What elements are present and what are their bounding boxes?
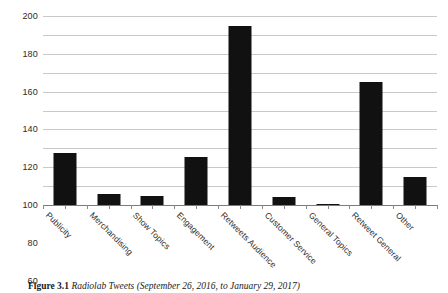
bar-slot bbox=[131, 16, 175, 205]
x-axis-category-label: Engagement bbox=[175, 210, 217, 252]
y-axis-tick-label: 160 bbox=[22, 87, 38, 97]
caption-text: Radiolab Tweets (September 26, 2016, to … bbox=[71, 281, 300, 291]
x-axis-category-label: General Topics bbox=[306, 210, 354, 258]
y-axis-tick-label: 180 bbox=[22, 49, 38, 59]
bar-slot bbox=[393, 16, 437, 205]
x-tickmark bbox=[437, 205, 438, 209]
x-axis-category-label: Merchandising bbox=[88, 210, 135, 257]
x-axis-category-label: Publicity bbox=[44, 210, 74, 240]
bar-slot bbox=[262, 16, 306, 205]
plot-area: 020406080100120140160180200 bbox=[43, 16, 437, 205]
figure-container: 020406080100120140160180200 PublicityMer… bbox=[0, 0, 448, 293]
bar-slot bbox=[87, 16, 131, 205]
bar-slot bbox=[349, 16, 393, 205]
bar-slot bbox=[174, 16, 218, 205]
y-axis-tick-label: 100 bbox=[22, 200, 38, 210]
bar-slot bbox=[306, 16, 350, 205]
x-axis-category-label: Other bbox=[394, 210, 416, 232]
x-axis-labels: PublicityMerchandisingShow TopicsEngagem… bbox=[43, 208, 437, 274]
y-axis-tick-label: 80 bbox=[28, 238, 38, 248]
bar bbox=[360, 82, 383, 205]
bar bbox=[272, 197, 295, 206]
y-axis-tick-label: 120 bbox=[22, 162, 38, 172]
caption-label: Figure 3.1 bbox=[28, 281, 69, 291]
bar bbox=[53, 153, 76, 205]
bar bbox=[141, 196, 164, 205]
y-axis-tick-label: 200 bbox=[22, 11, 38, 21]
x-axis-category-label: Show Topics bbox=[131, 210, 172, 251]
bar-slot bbox=[218, 16, 262, 205]
figure-caption: Figure 3.1 Radiolab Tweets (September 26… bbox=[28, 281, 438, 291]
bar bbox=[97, 194, 120, 205]
bar bbox=[185, 157, 208, 205]
bar-slot bbox=[43, 16, 87, 205]
bar-chart: 020406080100120140160180200 PublicityMer… bbox=[0, 0, 448, 276]
bar bbox=[228, 26, 251, 205]
y-axis-tick-label: 140 bbox=[22, 124, 38, 134]
bar bbox=[404, 177, 427, 205]
bars-group bbox=[43, 16, 437, 205]
